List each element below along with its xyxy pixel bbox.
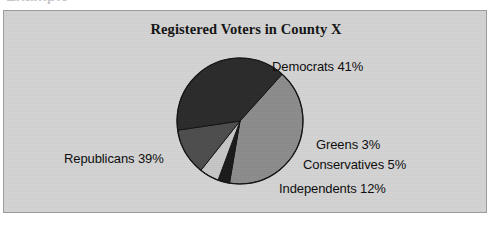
pie-label-greens: Greens 3% bbox=[316, 137, 380, 152]
pie-label-conservatives: Conservatives 5% bbox=[303, 157, 406, 172]
pie-slice-group bbox=[177, 58, 303, 184]
chart-panel: Registered Voters in County X Democrats … bbox=[3, 10, 487, 213]
pie-chart: Democrats 41% Greens 3% Conservatives 5%… bbox=[4, 11, 487, 213]
pie-label-republicans: Republicans 39% bbox=[64, 151, 164, 166]
pie-label-democrats: Democrats 41% bbox=[272, 59, 363, 74]
clipped-top-text-strip: Example bbox=[0, 0, 501, 9]
pie-chart-svg bbox=[4, 11, 487, 213]
clipped-top-text: Example bbox=[6, 0, 69, 4]
pie-label-independents: Independents 12% bbox=[279, 181, 386, 196]
